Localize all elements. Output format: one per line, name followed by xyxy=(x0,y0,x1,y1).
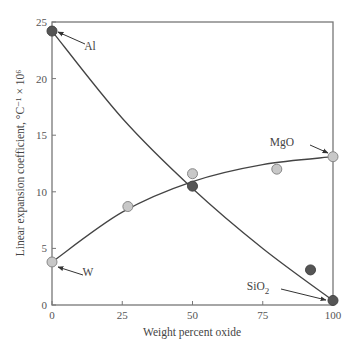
light-data-point xyxy=(47,257,57,267)
annotation-label: W xyxy=(83,266,94,278)
x-axis-label: Weight percent oxide xyxy=(143,326,241,339)
annotation-arrow xyxy=(58,32,85,44)
y-tick-label: 20 xyxy=(36,73,48,85)
annotation-label: MgO xyxy=(270,136,294,149)
x-tick-label: 50 xyxy=(187,309,199,321)
y-tick-label: 25 xyxy=(36,16,48,28)
annotation-arrow xyxy=(310,145,328,153)
light-data-point xyxy=(123,202,133,212)
annotation-arrow xyxy=(58,267,83,275)
annotations: AlWMgOSiO2 xyxy=(58,32,328,300)
light-data-point xyxy=(328,152,338,162)
data-points xyxy=(47,26,338,305)
dark-data-point xyxy=(47,26,57,36)
plot-frame xyxy=(52,22,333,305)
fit-curve xyxy=(52,31,333,300)
y-tick-label: 10 xyxy=(36,186,48,198)
x-tick-label: 100 xyxy=(325,309,342,321)
fit-curves xyxy=(52,31,333,300)
dark-data-point xyxy=(306,265,316,275)
y-tick-label: 5 xyxy=(42,242,48,254)
y-tick-label: 0 xyxy=(42,299,48,311)
chart: 02550751000510152025 AlWMgOSiO2 Weight p… xyxy=(0,0,358,352)
light-data-point xyxy=(272,164,282,174)
light-data-point xyxy=(188,169,198,179)
annotation-label: SiO2 xyxy=(247,280,269,296)
dark-data-point xyxy=(328,295,338,305)
annotation-label: Al xyxy=(84,40,96,52)
y-tick-label: 15 xyxy=(36,129,48,141)
dark-data-point xyxy=(188,181,198,191)
x-tick-label: 0 xyxy=(49,309,55,321)
y-axis-label: Linear expansion coefficient, °C⁻¹ × 10⁶ xyxy=(14,70,27,257)
x-tick-label: 75 xyxy=(257,309,269,321)
x-tick-label: 25 xyxy=(117,309,129,321)
